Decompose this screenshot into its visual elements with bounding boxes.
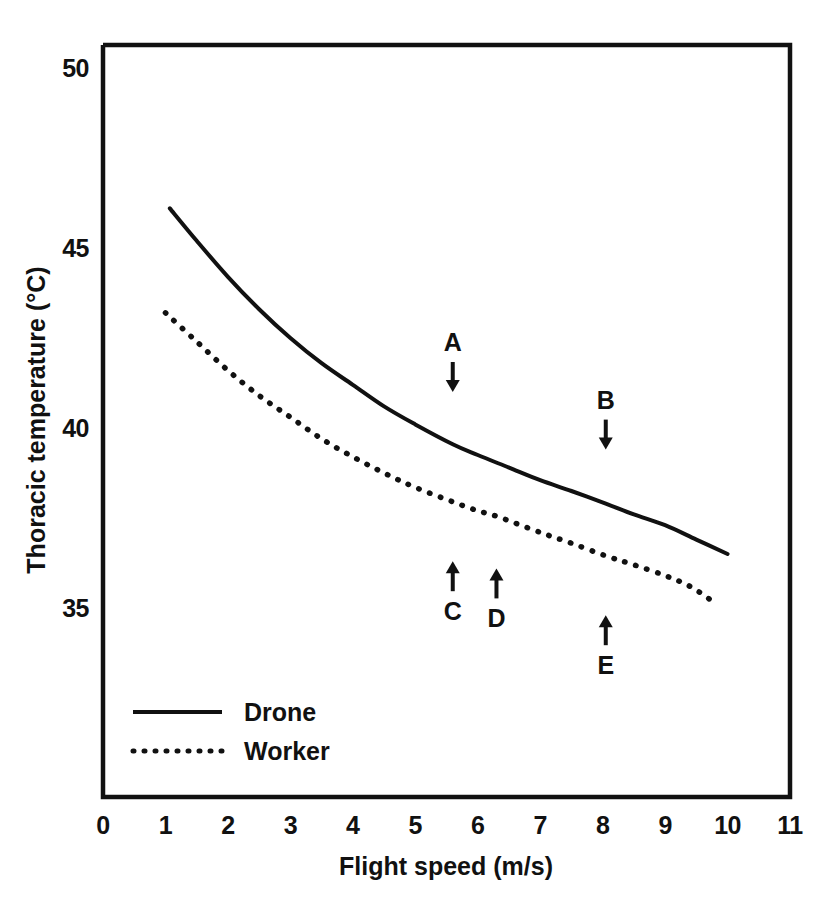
y-tick-label: 35 [62,594,89,623]
axis-box [103,45,790,797]
chart-figure: 35 40 45 50 0 1 2 3 4 5 6 7 8 9 10 11 Fl… [0,0,835,897]
legend-swatches [133,712,222,751]
x-tick-label: 3 [284,811,297,840]
series-path-worker [165,313,711,601]
annotation-label-d: D [487,604,505,633]
x-tick-label: 11 [777,811,802,840]
x-tick-label: 6 [471,811,484,840]
chart-canvas [0,0,835,897]
x-tick-label: 0 [96,811,109,840]
annotation-arrow-head [599,438,613,450]
annotation-arrow-head [446,380,460,392]
legend-label-drone: Drone [244,698,316,727]
annotation-label-a: A [444,328,462,357]
legend-label-worker: Worker [244,737,330,766]
x-tick-label: 2 [221,811,234,840]
annotation-arrow-head [446,561,460,573]
annotation-arrow-head [599,615,613,627]
annotation-label-b: B [597,385,615,414]
x-tick-label: 10 [714,811,741,840]
annotation-arrow-head [489,568,503,580]
plot-frame [103,45,790,797]
x-axis-title: Flight speed (m/s) [339,852,553,881]
annotation-label-c: C [444,597,462,626]
y-tick-label: 50 [62,54,89,83]
x-tick-label: 7 [533,811,546,840]
y-tick-label: 45 [62,234,89,263]
annotation-label-e: E [597,651,614,680]
x-tick-label: 1 [159,811,172,840]
y-axis-title: Thoracic temperature (°C) [22,266,51,573]
y-tick-label: 40 [62,414,89,443]
x-tick-label: 8 [596,811,609,840]
x-tick-label: 5 [409,811,422,840]
annotation-arrow-group [446,362,613,645]
x-tick-label: 4 [346,811,359,840]
series-line-worker [165,313,711,601]
x-tick-label: 9 [658,811,671,840]
